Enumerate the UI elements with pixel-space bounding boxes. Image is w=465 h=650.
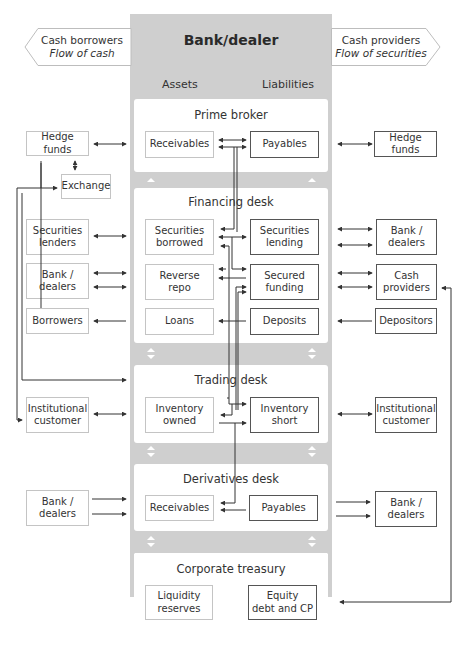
inventory-owned-box: Inventoryowned xyxy=(145,397,214,433)
down-triangle-icon xyxy=(308,453,316,457)
exchange-box: Exchange xyxy=(61,174,111,199)
cash-borrowers-banner: Cash borrowers Flow of cash xyxy=(24,28,132,66)
pb-receivables-box: Receivables xyxy=(145,131,214,158)
securities-lenders-box: Securitieslenders xyxy=(26,219,89,255)
securities-lending-box: Securitieslending xyxy=(250,219,319,255)
down-triangle-icon xyxy=(147,453,155,457)
down-triangle-icon xyxy=(147,355,155,359)
left-hedge-funds-box: Hedge funds xyxy=(26,131,89,156)
desk-title: Corporate treasury xyxy=(134,562,328,576)
liquidity-reserves-box: Liquidityreserves xyxy=(145,585,213,620)
pb-payables-box: Payables xyxy=(250,131,319,158)
up-triangle-icon xyxy=(308,536,316,540)
down-triangle-icon xyxy=(308,543,316,547)
secured-funding-box: Securedfunding xyxy=(250,264,319,300)
flow-of-cash-label: Flow of cash xyxy=(49,47,114,59)
cash-borrowers-label: Cash borrowers xyxy=(32,34,132,47)
right-bank-dealers-box: Bank /dealers xyxy=(376,219,437,255)
deposits-box: Deposits xyxy=(250,308,319,335)
right-deriv-bank-dealers-box: Bank /dealers xyxy=(375,491,437,527)
bank-dealer-title: Bank/dealer xyxy=(130,32,332,48)
up-triangle-icon xyxy=(147,178,155,182)
assets-header: Assets xyxy=(162,78,198,91)
desk-title: Trading desk xyxy=(134,373,328,387)
desk-title: Derivatives desk xyxy=(134,472,328,486)
desk-title: Prime broker xyxy=(134,108,328,122)
up-triangle-icon xyxy=(147,536,155,540)
dd-receivables-box: Receivables xyxy=(145,495,214,521)
desk-title: Financing desk xyxy=(134,195,328,209)
up-triangle-icon xyxy=(147,348,155,352)
down-triangle-icon xyxy=(147,543,155,547)
loans-box: Loans xyxy=(145,308,214,335)
borrowers-box: Borrowers xyxy=(26,308,89,334)
flow-of-securities-label: Flow of securities xyxy=(335,47,426,59)
right-institutional-customer-box: Institutionalcustomer xyxy=(375,397,437,433)
liabilities-header: Liabilities xyxy=(262,78,314,91)
equity-debt-cp-box: Equitydebt and CP xyxy=(248,585,317,620)
left-deriv-bank-dealers-box: Bank /dealers xyxy=(26,490,89,526)
up-triangle-icon xyxy=(147,446,155,450)
securities-borrowed-box: Securitiesborrowed xyxy=(145,219,214,255)
cash-providers-label: Cash providers xyxy=(331,34,431,47)
right-hedge-funds-box: Hedge funds xyxy=(374,131,437,157)
cash-providers-box: Cashproviders xyxy=(376,264,437,300)
inventory-short-box: Inventoryshort xyxy=(250,397,319,433)
up-triangle-icon xyxy=(308,348,316,352)
left-institutional-customer-box: Institutionalcustomer xyxy=(26,397,89,433)
cash-providers-banner: Cash providers Flow of securities xyxy=(331,28,441,66)
left-bank-dealers-box: Bank /dealers xyxy=(26,263,89,299)
dd-payables-box: Payables xyxy=(249,495,318,521)
reverse-repo-box: Reverserepo xyxy=(145,264,214,300)
down-triangle-icon xyxy=(308,355,316,359)
up-triangle-icon xyxy=(308,446,316,450)
up-triangle-icon xyxy=(308,178,316,182)
depositors-box: Depositors xyxy=(375,308,437,334)
